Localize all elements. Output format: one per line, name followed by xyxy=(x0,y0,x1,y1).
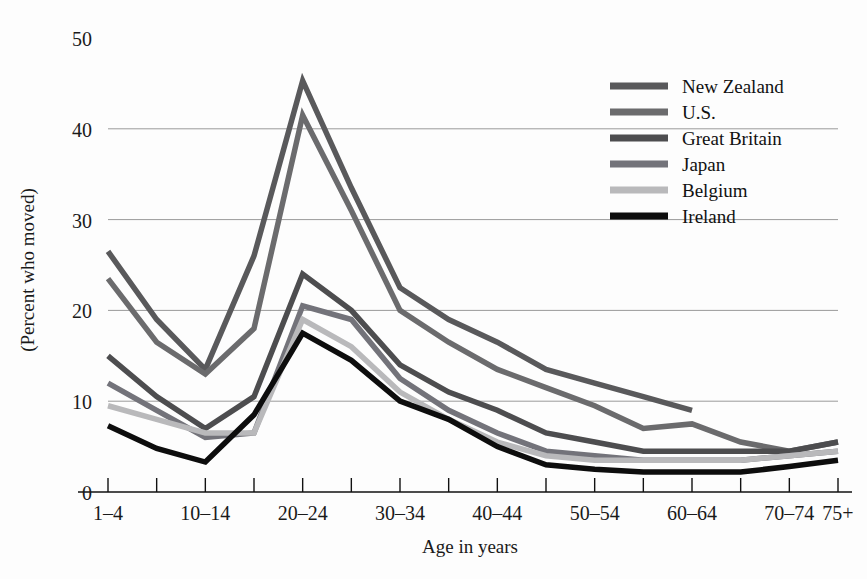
y-tick-labels: 50403020100 xyxy=(72,28,92,504)
x-tick-label: 75+ xyxy=(822,502,853,524)
x-tick-labels: 1–410–1420–2430–3440–4450–5460–6470–7475… xyxy=(93,502,854,524)
y-tick-label: 0 xyxy=(82,482,92,504)
x-tickmarks xyxy=(108,478,838,492)
legend-label: Great Britain xyxy=(682,128,782,149)
y-tick-label: 40 xyxy=(72,119,92,141)
y-tick-label: 10 xyxy=(72,391,92,413)
y-tick-label: 50 xyxy=(72,28,92,50)
legend-label: Ireland xyxy=(682,206,736,227)
y-tick-label: 20 xyxy=(72,300,92,322)
y-axis-title: (Percent who moved) xyxy=(17,188,39,352)
legend: New ZealandU.S.Great BritainJapanBelgium… xyxy=(610,76,784,227)
legend-label: New Zealand xyxy=(682,76,784,97)
x-tick-label: 50–54 xyxy=(570,502,620,524)
x-tick-label: 40–44 xyxy=(472,502,522,524)
x-tick-label: 10–14 xyxy=(180,502,230,524)
chart-figure: 50403020100 1–410–1420–2430–3440–4450–54… xyxy=(0,0,867,579)
x-tick-label: 20–24 xyxy=(278,502,328,524)
x-tick-label: 30–34 xyxy=(375,502,425,524)
x-tick-label: 70–74 xyxy=(764,502,814,524)
y-tick-label: 30 xyxy=(72,210,92,232)
legend-label: Japan xyxy=(682,154,726,175)
x-tick-label: 1–4 xyxy=(93,502,123,524)
legend-label: U.S. xyxy=(682,102,716,123)
legend-label: Belgium xyxy=(682,180,748,201)
x-axis-title: Age in years xyxy=(422,536,518,557)
line-chart: 50403020100 1–410–1420–2430–3440–4450–54… xyxy=(0,0,867,579)
x-tick-label: 60–64 xyxy=(667,502,717,524)
